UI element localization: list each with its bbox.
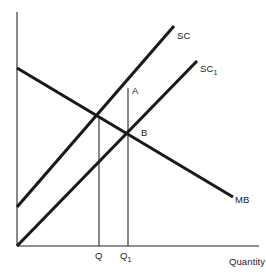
sc1-curve-label: SC1 bbox=[200, 64, 218, 76]
sc-curve-label: SC bbox=[177, 31, 190, 41]
sc1-curve bbox=[17, 61, 197, 246]
economics-diagram: SC SC1 MB A B Q Q1 Quantity bbox=[0, 0, 266, 274]
q1-tick-label-text: Q bbox=[120, 250, 128, 261]
point-b-label: B bbox=[141, 128, 147, 138]
q-tick-label: Q bbox=[95, 251, 103, 261]
q1-tick-label-subscript: 1 bbox=[128, 255, 132, 264]
q1-tick-label: Q1 bbox=[120, 251, 132, 263]
mb-curve bbox=[17, 68, 233, 197]
sc1-curve-label-text: SC bbox=[200, 63, 213, 74]
x-axis-label: Quantity bbox=[229, 257, 265, 267]
mb-curve-label: MB bbox=[235, 195, 249, 205]
diagram-canvas bbox=[0, 0, 266, 274]
sc1-curve-label-subscript: 1 bbox=[213, 68, 217, 77]
point-a-label: A bbox=[132, 86, 138, 96]
